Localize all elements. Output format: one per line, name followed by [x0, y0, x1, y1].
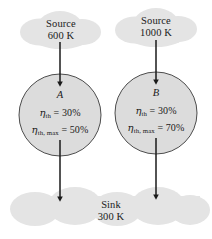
engine-a-eta-max-value: = 50% — [61, 124, 88, 135]
sink-label: Sink — [71, 199, 151, 211]
source-left-temperature: 600 K — [21, 30, 101, 42]
engine-b-eta-value: = 30% — [150, 105, 177, 116]
source-left-label-group: Source 600 K — [21, 18, 101, 42]
engine-a-eta-max-symbol: η — [32, 124, 38, 135]
engine-b-eta-subscript: th — [142, 110, 148, 117]
source-right-label: Source — [116, 15, 196, 27]
heat-engine-diagram: Source 600 K Source 1000 K A ηth = 30% η… — [0, 0, 212, 239]
engine-a-letter: A — [20, 89, 100, 101]
sink-temperature: 300 K — [71, 211, 151, 223]
source-left-label: Source — [21, 18, 101, 30]
sink-label-group: Sink 300 K — [71, 199, 151, 223]
engine-b-eta-symbol: η — [135, 105, 141, 116]
engine-b-eta-max-subscript: th, max — [134, 127, 155, 134]
engine-b-letter: B — [116, 87, 196, 99]
engine-b-eta-max-symbol: η — [128, 122, 134, 133]
engine-b-max-efficiency: ηth, max = 70% — [106, 122, 206, 133]
engine-b-eta-max-value: = 70% — [157, 122, 184, 133]
source-right-temperature: 1000 K — [116, 27, 196, 39]
source-right-label-group: Source 1000 K — [116, 15, 196, 39]
engine-a-eta-subscript: th — [46, 112, 52, 119]
engine-a-efficiency: ηth = 30% — [16, 107, 104, 118]
engine-a-eta-value: = 30% — [54, 107, 81, 118]
engine-b-efficiency: ηth = 30% — [112, 105, 200, 116]
engine-a-max-efficiency: ηth, max = 50% — [10, 124, 110, 135]
engine-a-eta-max-subscript: th, max — [38, 129, 59, 136]
engine-a-eta-symbol: η — [39, 107, 45, 118]
